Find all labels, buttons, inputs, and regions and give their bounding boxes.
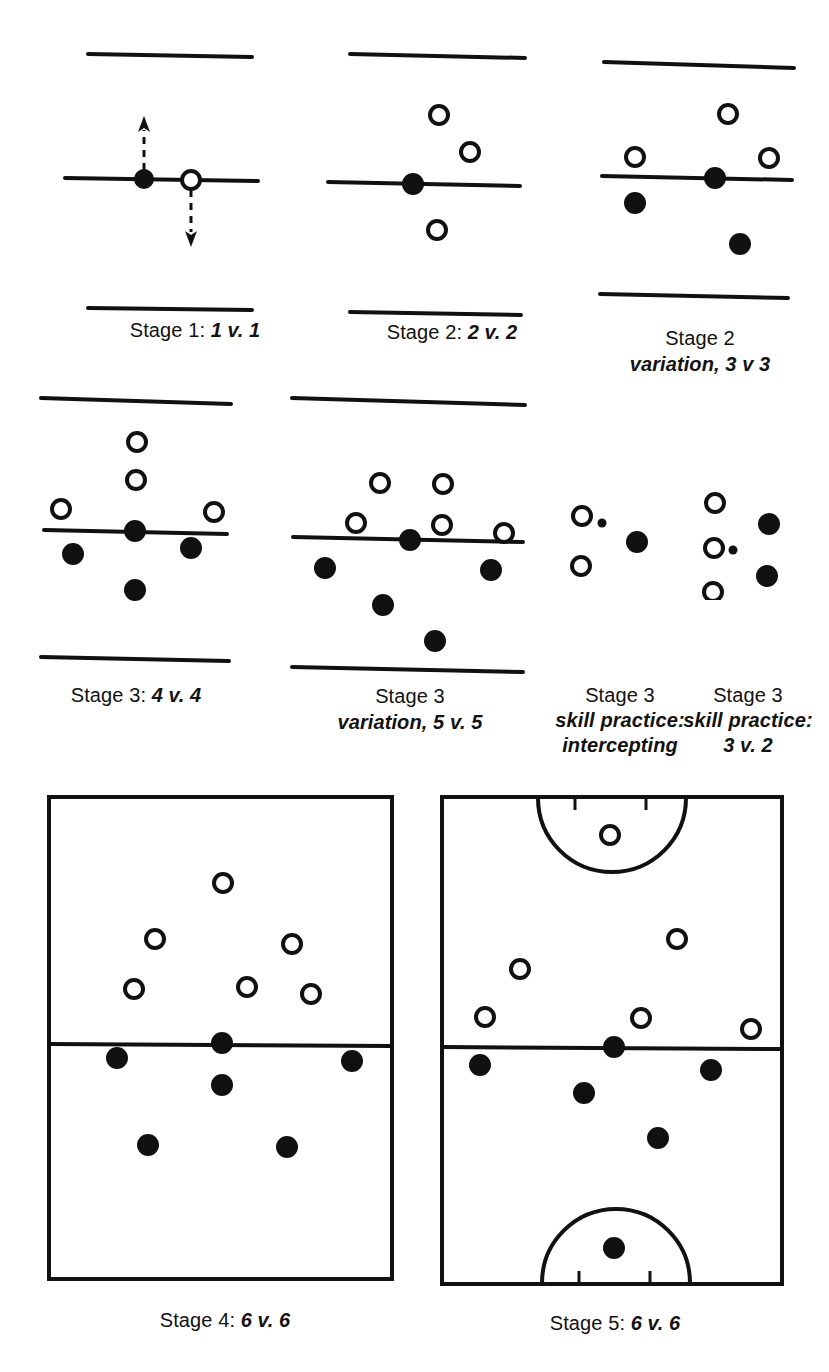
player-filled (604, 1238, 624, 1258)
goal-line-bottom (292, 667, 523, 672)
caption-stage4-em: 6 v. 6 (241, 1309, 291, 1331)
stage2-diagram (325, 40, 595, 325)
stage1-diagram (60, 40, 330, 325)
player-open (238, 978, 256, 996)
player-open (146, 930, 164, 948)
caption-stage4: Stage 4: 6 v. 6 (160, 1308, 291, 1333)
caption-stage4-lead: Stage 4: (160, 1309, 241, 1331)
player-filled (125, 521, 145, 541)
player-open (434, 475, 452, 493)
player-open (742, 1020, 760, 1038)
caption-stage3-lead: Stage 3: (71, 684, 152, 706)
player-open (127, 471, 145, 489)
panel-stage3-variation (285, 385, 545, 680)
player-filled (63, 544, 83, 564)
figure-canvas: Stage 1: 1 v. 1 Stage 2: 2 v. 2 (0, 0, 829, 1372)
centre-line (602, 176, 792, 180)
player-open (347, 514, 365, 532)
player-open (430, 106, 448, 124)
player-filled (400, 530, 420, 550)
stage3-intercepting-diagram (555, 490, 675, 600)
panel-stage3 (15, 385, 280, 675)
player-filled (181, 538, 201, 558)
caption-stage5-lead: Stage 5: (550, 1312, 631, 1334)
caption-stage5-em: 6 v. 6 (631, 1312, 681, 1334)
player-open (182, 171, 200, 189)
player-open (706, 494, 724, 512)
caption-stage3: Stage 3: 4 v. 4 (71, 683, 202, 708)
panel-stage3-intercepting (555, 490, 675, 600)
player-filled (212, 1075, 232, 1095)
player-open (632, 1009, 650, 1027)
goal-line-bottom (350, 312, 521, 315)
ball-marker (598, 519, 607, 528)
caption-stage2-variation-line2: variation, 3 v 3 (630, 351, 771, 377)
goal-line-bottom (600, 294, 788, 298)
player-filled (705, 168, 725, 188)
panel-stage4 (45, 793, 400, 1283)
movement-arrow-down-head (185, 231, 197, 247)
player-open (125, 980, 143, 998)
player-open (461, 143, 479, 161)
caption-stage2-lead: Stage 2: (387, 321, 468, 343)
caption-stage3-variation: Stage 3 variation, 5 v. 5 (337, 683, 482, 735)
player-filled (277, 1137, 297, 1157)
goal-line-bottom (41, 657, 229, 661)
player-open (495, 524, 513, 542)
caption-stage3-3v2-line3: 3 v. 2 (683, 733, 812, 758)
caption-stage5: Stage 5: 6 v. 6 (550, 1311, 681, 1336)
panel-stage2 (325, 40, 595, 325)
caption-stage3-intercepting: Stage 3 skill practice: intercepting (555, 683, 684, 758)
goal-line-bottom (88, 308, 252, 310)
player-filled (315, 558, 335, 578)
stage3-variation-diagram (285, 385, 545, 680)
panel-stage5 (438, 793, 788, 1288)
stage3-3v2-diagram (685, 485, 815, 600)
caption-stage1: Stage 1: 1 v. 1 (130, 318, 261, 343)
centre-line (65, 178, 258, 181)
ball-marker (729, 546, 738, 555)
player-filled (759, 514, 779, 534)
player-filled (625, 193, 645, 213)
movement-arrow-up-head (138, 116, 150, 132)
player-open (704, 583, 722, 600)
player-open (719, 105, 737, 123)
panel-stage1 (60, 40, 330, 325)
panel-stage3-3v2 (685, 485, 815, 600)
player-open (214, 874, 232, 892)
goal-line-top (292, 398, 525, 405)
player-open (668, 930, 686, 948)
caption-stage3-3v2-line1: Stage 3 (713, 684, 783, 706)
player-open (433, 516, 451, 534)
player-open (283, 935, 301, 953)
player-filled (627, 532, 647, 552)
player-filled (730, 234, 750, 254)
player-filled (373, 595, 393, 615)
goal-line-top (350, 54, 525, 58)
caption-stage3-3v2-line2: skill practice: (683, 708, 812, 733)
player-open (572, 557, 590, 575)
caption-stage3-variation-line2: variation, 5 v. 5 (337, 709, 482, 735)
player-filled (212, 1033, 232, 1053)
player-open (511, 960, 529, 978)
player-filled (425, 631, 445, 651)
player-filled (470, 1055, 490, 1075)
stage3-diagram (15, 385, 280, 675)
player-filled (342, 1051, 362, 1071)
player-filled (648, 1128, 668, 1148)
caption-stage1-lead: Stage 1: (130, 319, 211, 341)
player-filled (757, 566, 777, 586)
player-open (573, 507, 591, 525)
player-filled (138, 1135, 158, 1155)
caption-stage3-intercepting-line3: intercepting (555, 733, 684, 758)
caption-stage2: Stage 2: 2 v. 2 (387, 320, 518, 345)
caption-stage1-em: 1 v. 1 (211, 319, 261, 341)
goal-line-top (88, 54, 252, 57)
stage2-variation-diagram (580, 48, 829, 333)
player-open (601, 826, 619, 844)
player-open (371, 474, 389, 492)
player-filled (125, 580, 145, 600)
player-open (626, 148, 644, 166)
stage4-court-diagram (45, 793, 400, 1283)
player-open (302, 985, 320, 1003)
